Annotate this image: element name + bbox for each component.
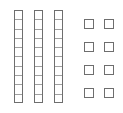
unit-cube: [84, 65, 94, 75]
rod-segment: [35, 30, 42, 39]
rod-segment: [55, 67, 62, 76]
rod-segment: [15, 76, 22, 85]
tens-rod: [54, 10, 63, 103]
rod-segment: [15, 20, 22, 29]
rod-segment: [55, 85, 62, 94]
unit-cube: [104, 19, 114, 29]
rod-segment: [15, 67, 22, 76]
rod-segment: [15, 95, 22, 104]
unit-cube: [104, 65, 114, 75]
unit-cube: [84, 19, 94, 29]
rod-segment: [35, 20, 42, 29]
rod-segment: [55, 30, 62, 39]
rod-segment: [35, 48, 42, 57]
unit-cube: [104, 42, 114, 52]
rod-segment: [15, 57, 22, 66]
rod-segment: [35, 39, 42, 48]
rod-segment: [55, 48, 62, 57]
rod-segment: [55, 39, 62, 48]
rod-segment: [55, 76, 62, 85]
tens-rod: [34, 10, 43, 103]
rod-segment: [35, 67, 42, 76]
rod-segment: [55, 95, 62, 104]
rod-segment: [55, 11, 62, 20]
rod-segment: [15, 30, 22, 39]
rod-segment: [35, 85, 42, 94]
unit-cube: [84, 88, 94, 98]
rod-segment: [35, 11, 42, 20]
rod-segment: [55, 20, 62, 29]
rod-segment: [15, 48, 22, 57]
rod-segment: [15, 39, 22, 48]
rod-segment: [15, 85, 22, 94]
unit-cube: [84, 42, 94, 52]
rod-segment: [35, 95, 42, 104]
rod-segment: [35, 57, 42, 66]
rod-segment: [35, 76, 42, 85]
unit-cube: [104, 88, 114, 98]
rod-segment: [15, 11, 22, 20]
tens-rod: [14, 10, 23, 103]
rod-segment: [55, 57, 62, 66]
